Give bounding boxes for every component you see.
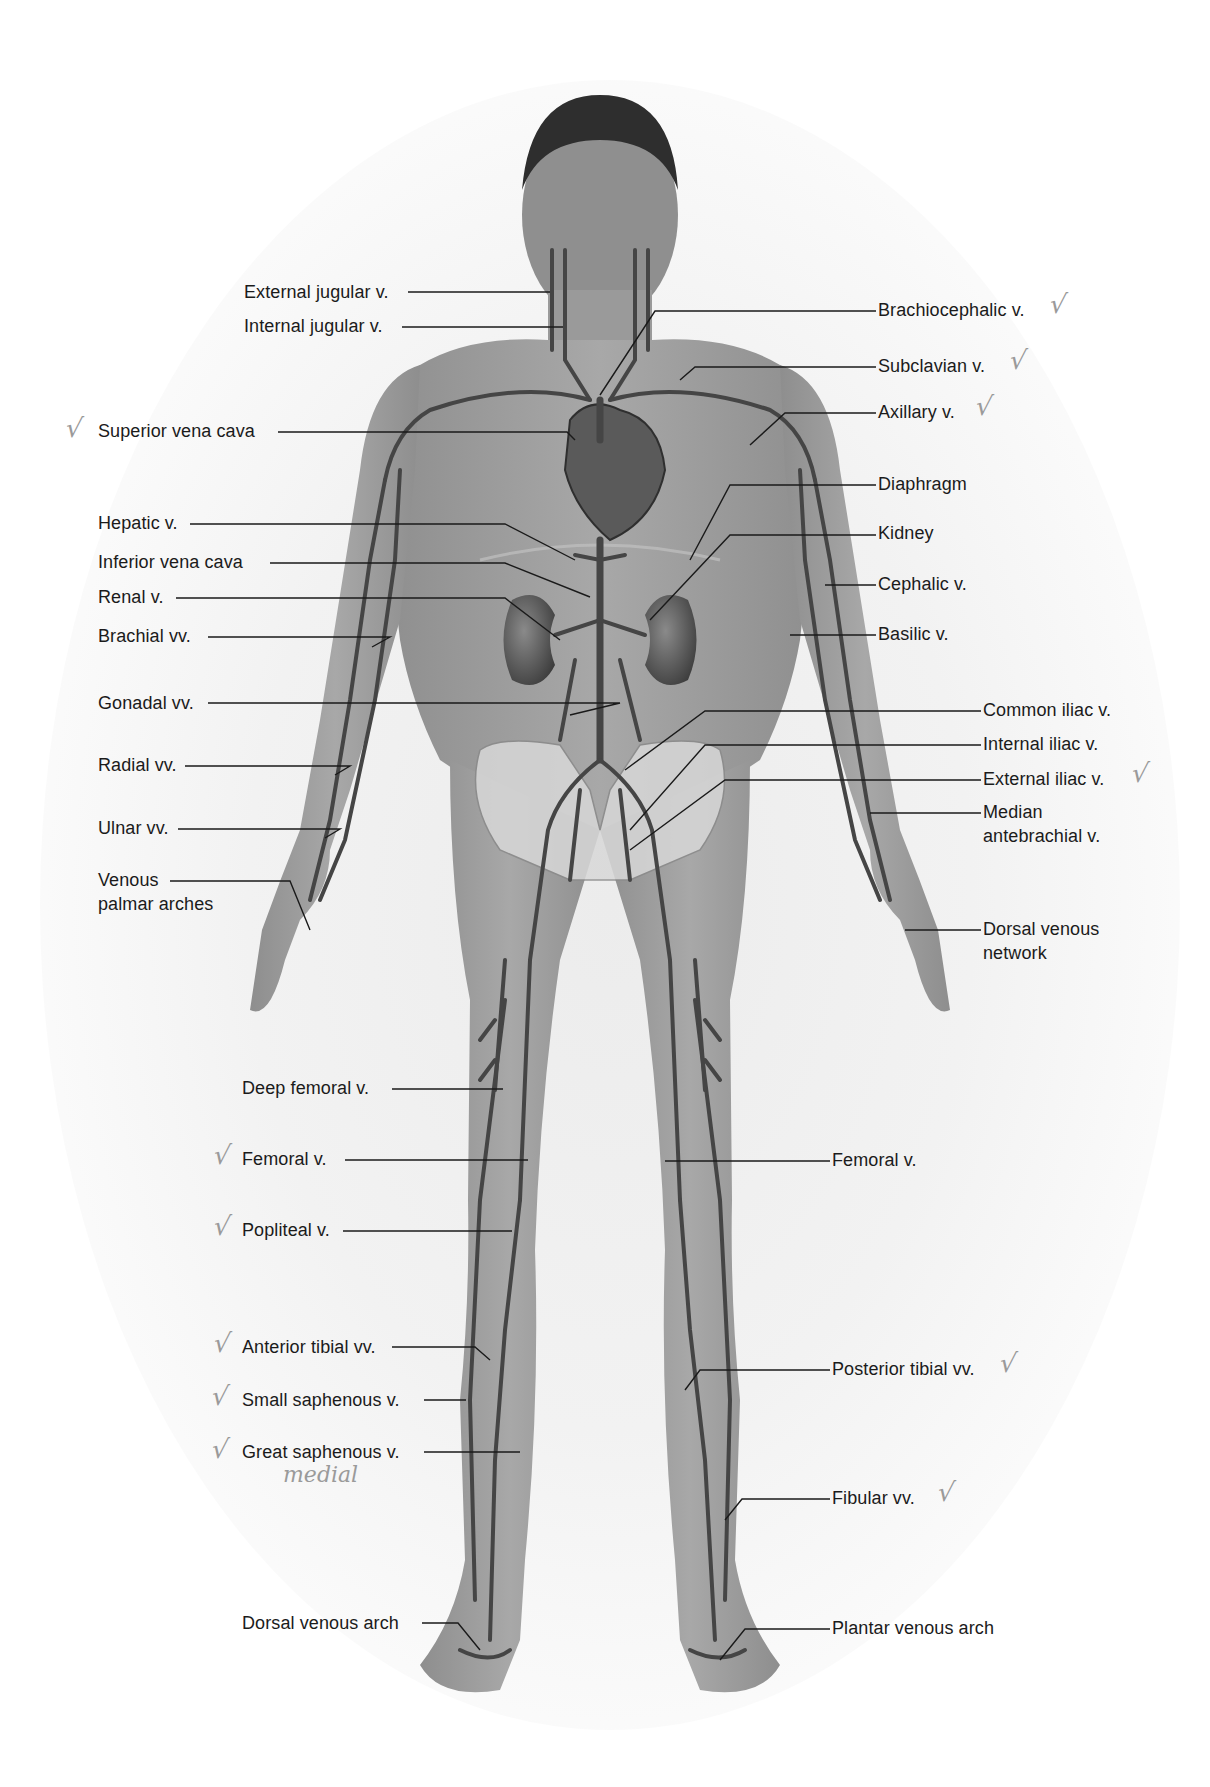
check-mark-icon: √ — [998, 1350, 1018, 1376]
label-axillary-v: Axillary v. — [878, 401, 955, 423]
label-external-iliac-v: External iliac v. — [983, 768, 1104, 790]
label-cephalic-v: Cephalic v. — [878, 573, 967, 595]
check-mark-icon: √ — [1130, 760, 1150, 786]
label-femoral-v-left: Femoral v. — [242, 1148, 327, 1170]
check-mark-icon: √ — [936, 1479, 956, 1505]
label-ulnar-vv: Ulnar vv. — [98, 817, 169, 839]
label-basilic-v: Basilic v. — [878, 623, 949, 645]
label-small-saphenous-v: Small saphenous v. — [242, 1389, 400, 1411]
label-gonadal-vv: Gonadal vv. — [98, 692, 194, 714]
handwritten-note-medial: medial — [283, 1462, 358, 1487]
label-plantar-venous-arch: Plantar venous arch — [832, 1617, 994, 1639]
label-external-jugular-v: External jugular v. — [244, 281, 389, 303]
label-subclavian-v: Subclavian v. — [878, 355, 985, 377]
label-median-antebrachial-v-line2: antebrachial v. — [983, 825, 1100, 847]
label-brachiocephalic-v: Brachiocephalic v. — [878, 299, 1025, 321]
label-venous-palmar-arches-line2: palmar arches — [98, 893, 213, 915]
label-anterior-tibial-vv: Anterior tibial vv. — [242, 1336, 376, 1358]
label-venous-palmar-arches-line1: Venous — [98, 869, 159, 891]
vein-diagram: External jugular v. Internal jugular v. … — [0, 0, 1210, 1787]
label-great-saphenous-v: Great saphenous v. — [242, 1441, 400, 1463]
label-inferior-vena-cava: Inferior vena cava — [98, 551, 243, 573]
check-mark-icon: √ — [210, 1383, 230, 1409]
label-posterior-tibial-vv: Posterior tibial vv. — [832, 1358, 975, 1380]
check-mark-icon: √ — [64, 415, 84, 441]
check-mark-icon: √ — [212, 1142, 232, 1168]
label-common-iliac-v: Common iliac v. — [983, 699, 1111, 721]
check-mark-icon: √ — [212, 1330, 232, 1356]
label-diaphragm: Diaphragm — [878, 473, 967, 495]
label-popliteal-v: Popliteal v. — [242, 1219, 330, 1241]
label-hepatic-v: Hepatic v. — [98, 512, 178, 534]
label-femoral-v-right: Femoral v. — [832, 1149, 917, 1171]
label-fibular-vv: Fibular vv. — [832, 1487, 915, 1509]
label-superior-vena-cava: Superior vena cava — [98, 420, 255, 442]
check-mark-icon: √ — [210, 1436, 230, 1462]
check-mark-icon: √ — [974, 393, 994, 419]
label-internal-jugular-v: Internal jugular v. — [244, 315, 383, 337]
label-dorsal-venous-network-line1: Dorsal venous — [983, 918, 1099, 940]
check-mark-icon: √ — [212, 1213, 232, 1239]
check-mark-icon: √ — [1008, 347, 1028, 373]
check-mark-icon: √ — [1048, 291, 1068, 317]
label-brachial-vv: Brachial vv. — [98, 625, 191, 647]
label-dorsal-venous-arch: Dorsal venous arch — [242, 1612, 399, 1634]
label-radial-vv: Radial vv. — [98, 754, 177, 776]
label-dorsal-venous-network-line2: network — [983, 942, 1047, 964]
label-renal-v: Renal v. — [98, 586, 164, 608]
label-internal-iliac-v: Internal iliac v. — [983, 733, 1098, 755]
label-deep-femoral-v: Deep femoral v. — [242, 1077, 369, 1099]
label-kidney: Kidney — [878, 522, 934, 544]
label-median-antebrachial-v-line1: Median — [983, 801, 1043, 823]
